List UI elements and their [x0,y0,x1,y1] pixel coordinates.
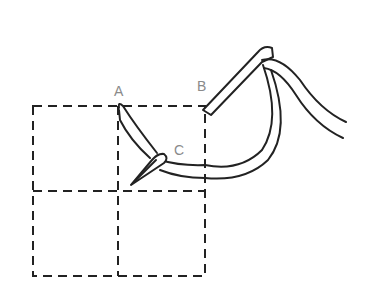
thread-segment-b-loop [203,47,273,115]
thread-a-to-needle [119,104,157,158]
stitch-diagram: A B C [0,0,371,291]
label-a: A [114,83,124,99]
label-c: C [174,142,184,158]
thread-tail-upper [262,59,346,122]
thread-tail-lower [264,68,343,138]
thread [160,47,346,179]
thread-a-inner [119,110,150,158]
dashed-grid [33,106,205,276]
thread-curve-inner [160,70,281,179]
label-b: B [197,78,206,94]
grid-outer-square [33,106,205,276]
